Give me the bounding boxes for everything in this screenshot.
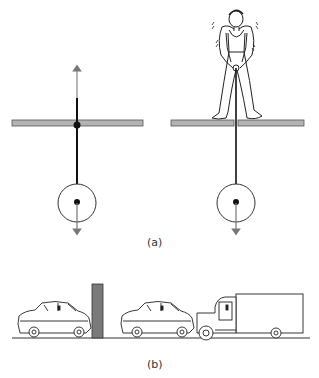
physics-figure (0, 0, 319, 378)
pivot-point (74, 122, 81, 129)
truck (197, 294, 303, 340)
wall (92, 284, 103, 338)
plank-right-left-half (171, 120, 234, 126)
plank-right-right-half (238, 120, 304, 126)
panel-b-crash-scene (12, 284, 310, 340)
panel-a-label: (a) (147, 236, 162, 249)
car-crashed-into-wall (18, 302, 91, 338)
panel-a-left-pendulum (12, 68, 143, 232)
car-hit-by-truck (121, 302, 194, 338)
panel-b-label: (b) (147, 358, 163, 371)
person-figure (212, 10, 262, 119)
panel-a-right-pendulum (171, 10, 304, 232)
